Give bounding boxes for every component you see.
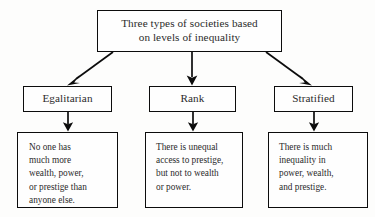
arrow-title-to-stratified — [266, 52, 312, 86]
society-types-diagram: Three types of societies based on levels… — [0, 0, 375, 217]
description-line: and prestige. — [279, 181, 334, 194]
description-box-rank: There is unequal access to prestige, but… — [145, 132, 243, 208]
category-label-stratified: Stratified — [292, 92, 335, 106]
category-label-rank: Rank — [180, 92, 204, 106]
category-box-egalitarian: Egalitarian — [23, 86, 112, 112]
arrow-stratified-to-description — [309, 112, 319, 132]
description-line: but not to wealth — [156, 167, 223, 180]
description-line: or power. — [156, 181, 223, 194]
diagram-title-box: Three types of societies based on levels… — [97, 10, 282, 52]
description-line: or prestige than — [29, 181, 87, 194]
description-line: power, wealth, — [279, 167, 334, 180]
arrow-rank-to-description — [188, 112, 198, 132]
description-text-stratified: There is much inequality in power, wealt… — [279, 141, 334, 194]
category-box-rank: Rank — [149, 86, 236, 112]
diagram-title-line-1: Three types of societies based — [121, 17, 258, 29]
arrow-title-to-egalitarian — [67, 52, 113, 86]
description-line: anyone else. — [29, 194, 87, 207]
diagram-title-line-2: on levels of inequality — [121, 31, 258, 45]
description-line: much more — [29, 154, 87, 167]
description-line: inequality in — [279, 154, 334, 167]
category-box-stratified: Stratified — [274, 86, 353, 112]
description-line: access to prestige, — [156, 154, 223, 167]
description-line: There is much — [279, 141, 334, 154]
description-box-stratified: There is much inequality in power, wealt… — [268, 132, 368, 208]
description-line: No one has — [29, 141, 87, 154]
category-label-egalitarian: Egalitarian — [42, 92, 92, 106]
description-line: wealth, power, — [29, 167, 87, 180]
arrow-title-to-rank — [187, 52, 198, 86]
description-line: There is unequal — [156, 141, 223, 154]
description-text-rank: There is unequal access to prestige, but… — [156, 141, 223, 194]
description-box-egalitarian: No one has much more wealth, power, or p… — [17, 132, 118, 208]
arrow-egalitarian-to-description — [63, 112, 73, 132]
diagram-title-text: Three types of societies based on levels… — [121, 17, 258, 44]
description-text-egalitarian: No one has much more wealth, power, or p… — [29, 141, 87, 207]
